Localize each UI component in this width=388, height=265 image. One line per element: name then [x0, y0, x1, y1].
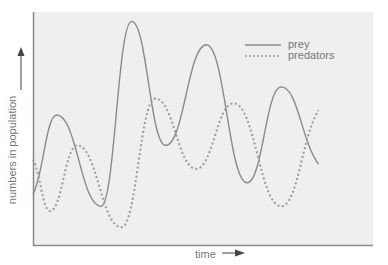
- legend-predators-label: predators: [288, 49, 334, 61]
- plot-background: [33, 12, 373, 246]
- y-arrow-head-icon: [18, 47, 25, 56]
- y-axis-label: numbers in population: [2, 60, 22, 240]
- chart: [0, 0, 388, 265]
- x-axis-label: time: [195, 248, 216, 260]
- y-axis-label-text: numbers in population: [6, 96, 18, 204]
- x-arrow-head-icon: [235, 250, 245, 257]
